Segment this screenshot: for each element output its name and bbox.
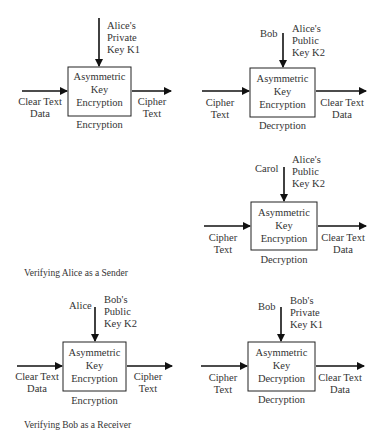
diagram-alice-private-encryption: Asymmetric Key Encryption Encryption Cle… xyxy=(18,18,171,130)
diagram-carol-decryption: Asymmetric Key Encryption Decryption Cip… xyxy=(204,154,366,265)
key-label-1: Alice's xyxy=(292,154,321,165)
key-label-2: Private xyxy=(107,32,137,43)
box-line-2: Key xyxy=(274,86,292,97)
below-label: Encryption xyxy=(71,395,118,406)
key-label-1: Bob's xyxy=(104,294,127,305)
input-label-1: Clear Text xyxy=(15,371,59,382)
output-label-1: Clear Text xyxy=(321,232,365,243)
output-label-2: Text xyxy=(143,108,162,119)
actor-label: Bob xyxy=(260,28,278,39)
box-line-3: Encryption xyxy=(71,373,118,384)
box-line-1: Asymmetric xyxy=(74,71,126,82)
output-label-2: Text xyxy=(139,383,158,394)
output-label-1: Clear Text xyxy=(318,372,362,383)
output-label-2: Data xyxy=(332,109,352,120)
below-label: Encryption xyxy=(76,119,123,130)
actor-label: Bob xyxy=(258,301,276,312)
box-line-3: Encryption xyxy=(259,99,306,110)
caption-verifying-sender: Verifying Alice as a Sender xyxy=(24,268,129,278)
input-label-2: Text xyxy=(214,384,233,395)
box-line-1: Asymmetric xyxy=(257,73,309,84)
diagram-alice-encryption-bob-public: Asymmetric Key Encryption Encryption Cle… xyxy=(15,294,172,406)
key-label-1: Alice's xyxy=(107,20,136,31)
box-line-3: Encryption xyxy=(76,97,123,108)
input-label-2: Text xyxy=(214,244,233,255)
output-label-1: Cipher xyxy=(134,371,163,382)
key-label-2: Public xyxy=(292,166,319,177)
input-label-1: Cipher xyxy=(209,232,238,243)
key-label-3: Key K2 xyxy=(292,47,325,58)
box-line-2: Key xyxy=(86,360,104,371)
input-label-2: Data xyxy=(27,383,47,394)
box-line-3: Encryption xyxy=(261,233,308,244)
output-label-2: Data xyxy=(333,244,353,255)
diagram-bob-private-decryption: Asymmetric Key Decryption Decryption Cip… xyxy=(201,295,364,405)
input-label-2: Data xyxy=(30,108,50,119)
input-label-2: Text xyxy=(211,109,230,120)
input-label-1: Clear Text xyxy=(18,96,62,107)
box-line-3: Decryption xyxy=(258,373,306,384)
box-line-1: Asymmetric xyxy=(69,347,121,358)
asymmetric-key-diagram: Asymmetric Key Encryption Encryption Cle… xyxy=(0,0,382,443)
box-line-2: Key xyxy=(91,84,109,95)
key-label-3: Key K1 xyxy=(107,44,140,55)
box-line-1: Asymmetric xyxy=(258,207,310,218)
actor-label: Carol xyxy=(255,163,278,174)
actor-label: Alice xyxy=(69,300,92,311)
key-label-1: Bob's xyxy=(290,295,313,306)
below-label: Decryption xyxy=(258,394,306,405)
key-label-3: Key K2 xyxy=(292,178,325,189)
caption-verifying-receiver: Verifying Bob as a Receiver xyxy=(24,420,132,430)
key-label-2: Public xyxy=(292,35,319,46)
box-line-2: Key xyxy=(273,360,291,371)
box-line-2: Key xyxy=(275,220,293,231)
below-label: Decryption xyxy=(260,254,308,265)
key-label-1: Alice's xyxy=(292,23,321,34)
output-label-1: Cipher xyxy=(138,96,167,107)
input-label-1: Cipher xyxy=(206,97,235,108)
key-label-2: Public xyxy=(104,306,131,317)
output-label-1: Clear Text xyxy=(320,97,364,108)
below-label: Decryption xyxy=(259,120,307,131)
key-label-3: Key K2 xyxy=(104,318,137,329)
diagram-bob-decryption: Asymmetric Key Encryption Decryption Cip… xyxy=(202,23,366,131)
key-label-2: Private xyxy=(290,307,320,318)
box-line-1: Asymmetric xyxy=(256,347,308,358)
output-label-2: Data xyxy=(330,384,350,395)
key-label-3: Key K1 xyxy=(290,319,323,330)
input-label-1: Cipher xyxy=(209,372,238,383)
